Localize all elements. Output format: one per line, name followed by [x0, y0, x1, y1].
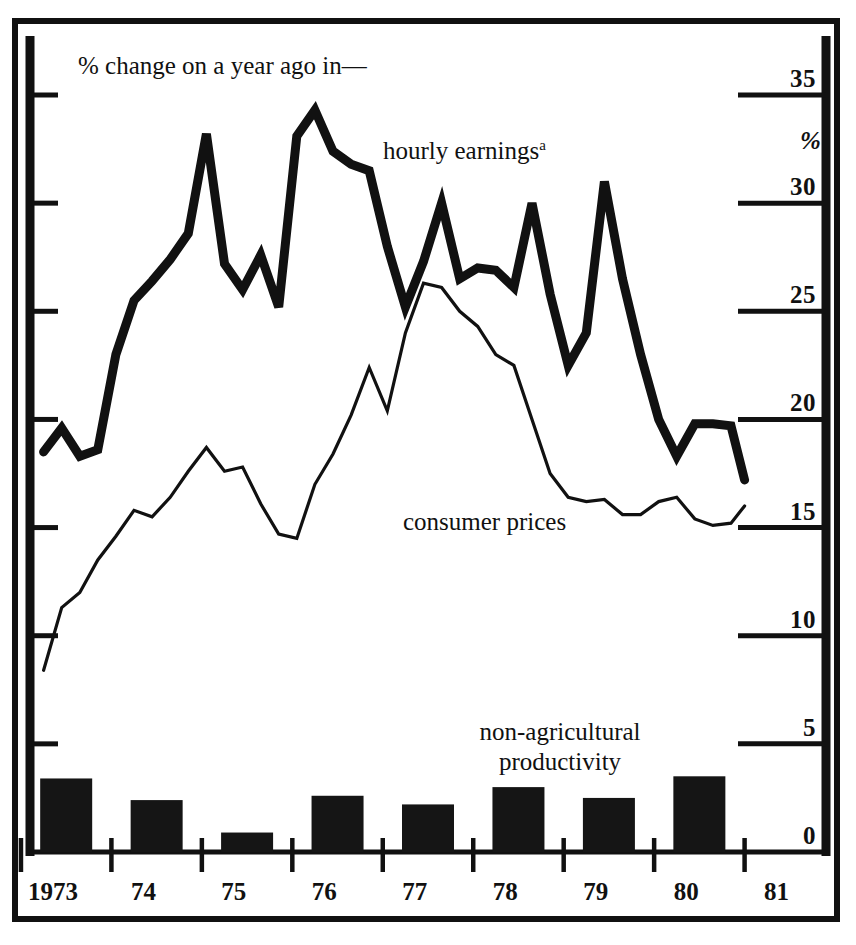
productivity-label-line1: non-agricultural [479, 718, 640, 746]
x-tick-label: 74 [131, 878, 156, 906]
productivity-bar [583, 798, 635, 852]
hourly-earnings-line [44, 110, 745, 480]
y-tick-label: 35 [770, 65, 816, 93]
chart-figure: % change on a year ago in— hourly earnin… [0, 0, 856, 945]
y-tick-label: 25 [770, 281, 816, 309]
productivity-bar [40, 778, 92, 852]
productivity-label-line2: productivity [499, 748, 621, 776]
y-tick-label: 5 [770, 714, 816, 742]
x-axis-ticks [21, 838, 745, 872]
hourly-earnings-label-text: hourly earnings [383, 137, 539, 164]
x-tick-label: 77 [402, 878, 427, 906]
chart-caption: % change on a year ago in— [78, 52, 367, 80]
consumer-prices-label: consumer prices [403, 508, 566, 536]
productivity-bar [312, 796, 364, 852]
y-tick-label: 20 [770, 389, 816, 417]
x-tick-label: 81 [764, 878, 789, 906]
x-tick-label: 78 [493, 878, 518, 906]
y-tick-label: 0 [770, 822, 816, 850]
x-tick-label: 80 [674, 878, 699, 906]
y-tick-label: 10 [770, 606, 816, 634]
y-axis-unit-label: % [800, 127, 821, 155]
hourly-earnings-label: hourly earningsa [383, 137, 546, 165]
x-tick-label: 1973 [28, 878, 78, 906]
productivity-bar [492, 787, 544, 852]
productivity-bar [402, 804, 454, 852]
y-tick-label: 15 [770, 498, 816, 526]
productivity-bar [673, 776, 725, 852]
productivity-bar [221, 833, 273, 852]
x-tick-label: 79 [583, 878, 608, 906]
hourly-earnings-footnote-marker: a [539, 137, 546, 153]
productivity-bar [131, 800, 183, 852]
x-tick-label: 75 [221, 878, 246, 906]
y-tick-label: 30 [770, 173, 816, 201]
x-tick-label: 76 [312, 878, 337, 906]
